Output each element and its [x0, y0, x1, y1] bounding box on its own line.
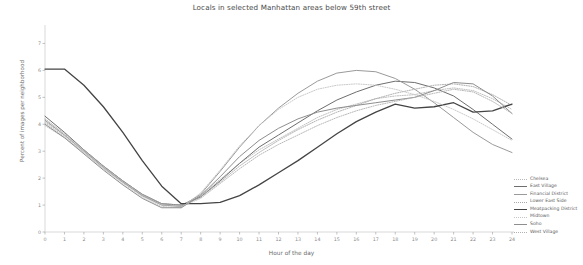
legend-label: Midtown [530, 214, 549, 219]
svg-text:16: 16 [353, 237, 359, 242]
legend-label: Meatpacking District [530, 207, 577, 212]
svg-text:0: 0 [38, 230, 41, 235]
legend-label: Soho [530, 222, 541, 227]
axes-group [45, 25, 514, 232]
svg-text:10: 10 [237, 237, 243, 242]
legend-item[interactable]: Financial District [514, 190, 577, 198]
legend-label: Financial District [530, 192, 568, 197]
legend-item[interactable]: West Village [514, 228, 577, 236]
legend-item[interactable]: East Village [514, 183, 577, 191]
svg-text:11: 11 [256, 237, 262, 242]
chart-container: Locals in selected Manhattan areas below… [0, 0, 583, 265]
legend-item[interactable]: Midtown [514, 213, 577, 221]
svg-text:17: 17 [373, 237, 379, 242]
svg-text:7: 7 [180, 237, 183, 242]
legend-swatch-icon [514, 183, 527, 189]
svg-text:24: 24 [509, 237, 515, 242]
svg-text:4: 4 [38, 122, 41, 127]
legend-label: Chelsea [530, 177, 548, 182]
svg-text:3: 3 [102, 237, 105, 242]
legend-swatch-icon [514, 229, 527, 235]
y-tick-labels: 01234567 [38, 41, 45, 235]
line-chart-plot: 0123456789101112131415161718192021222324… [0, 0, 583, 265]
legend-swatch-icon [514, 221, 527, 227]
svg-text:3: 3 [38, 149, 41, 154]
svg-text:6: 6 [160, 237, 163, 242]
legend-item[interactable]: Meatpacking District [514, 205, 577, 213]
y-axis-title: Percent of images per neighborhood [19, 31, 25, 191]
series-group [45, 69, 512, 208]
svg-text:13: 13 [295, 237, 301, 242]
legend-label: Lower East Side [530, 199, 567, 204]
svg-text:20: 20 [431, 237, 437, 242]
legend-label: East Village [530, 184, 557, 189]
x-tick-labels: 0123456789101112131415161718192021222324 [43, 232, 515, 242]
legend-swatch-icon [514, 206, 527, 212]
svg-text:12: 12 [275, 237, 281, 242]
legend-item[interactable]: Lower East Side [514, 198, 577, 206]
svg-text:2: 2 [82, 237, 85, 242]
svg-text:6: 6 [38, 68, 41, 73]
svg-text:23: 23 [489, 237, 495, 242]
series-line [45, 81, 512, 205]
svg-text:18: 18 [392, 237, 398, 242]
svg-text:15: 15 [334, 237, 340, 242]
svg-text:9: 9 [219, 237, 222, 242]
svg-text:5: 5 [141, 237, 144, 242]
legend-swatch-icon [514, 214, 527, 220]
svg-text:22: 22 [470, 237, 476, 242]
legend-label: West Village [530, 230, 558, 235]
x-axis-title: Hour of the day [0, 250, 583, 256]
svg-text:1: 1 [38, 203, 41, 208]
legend-item[interactable]: Chelsea [514, 175, 577, 183]
svg-text:1: 1 [63, 237, 66, 242]
series-line [45, 89, 512, 206]
svg-text:2: 2 [38, 176, 41, 181]
svg-text:14: 14 [314, 237, 320, 242]
svg-text:4: 4 [121, 237, 124, 242]
series-line [45, 83, 512, 208]
series-line [45, 69, 512, 204]
svg-text:0: 0 [43, 237, 46, 242]
legend-swatch-icon [514, 176, 527, 182]
legend-swatch-icon [514, 199, 527, 205]
legend-item[interactable]: Soho [514, 221, 577, 229]
svg-text:19: 19 [412, 237, 418, 242]
chart-legend: ChelseaEast VillageFinancial DistrictLow… [514, 175, 577, 236]
svg-text:5: 5 [38, 95, 41, 100]
svg-text:8: 8 [199, 237, 202, 242]
series-line [45, 84, 512, 208]
svg-text:7: 7 [38, 41, 41, 46]
svg-text:21: 21 [451, 237, 457, 242]
legend-swatch-icon [514, 191, 527, 197]
